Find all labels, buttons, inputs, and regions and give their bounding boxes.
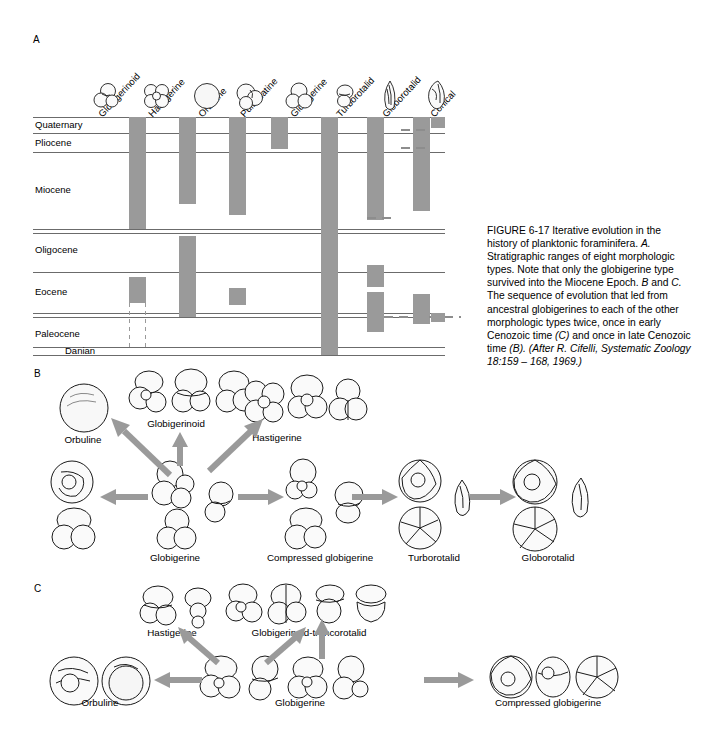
epoch-line-miocene-base <box>33 229 445 230</box>
shell-icon-c-globigerine-4 <box>330 655 370 703</box>
shell-icon-hastigerine <box>142 82 172 110</box>
range-bar-globorotalid-late <box>413 117 430 211</box>
figure-caption: FIGURE 6-17 Iterative evolution in the h… <box>487 224 692 368</box>
shell-icon-b-globigerinoid-2 <box>170 368 212 414</box>
range-bar-conical-paleocene <box>431 313 445 322</box>
panel-b-late-cenozoic-sequence: B Orbuline Globigerinoid <box>0 360 708 570</box>
epoch-label-paleocene: Paleocene <box>35 329 80 339</box>
arrow-c-globigerine-to-hastigerine <box>176 623 222 667</box>
epoch-label-pliocene: Pliocene <box>35 138 71 148</box>
shell-icon-globorotalid <box>378 80 402 112</box>
range-bar-globigerinoid-early <box>129 277 146 303</box>
arrow-c-globigerine-to-truncorotalid <box>262 623 308 667</box>
range-dash-conical-quaternary <box>401 129 431 131</box>
range-dash-turborotalid-miocene <box>367 217 397 219</box>
arrow-c-globigerine-to-orbuline <box>152 671 202 689</box>
node-label-c-compressed-globigerine: Compressed globigerine <box>478 697 618 708</box>
shell-icon-b-orbuline <box>58 382 110 434</box>
range-bar-globorotalid-early <box>413 294 430 324</box>
shell-icon-b-globigerine-side <box>203 480 237 528</box>
range-dash-globigerinoid-left <box>129 303 130 347</box>
shell-icon-c-compressed-2 <box>534 653 572 701</box>
epoch-label-danian: Danian <box>65 346 95 356</box>
epoch-line-oligocene-top <box>33 233 445 234</box>
range-bar-orbuline-late <box>229 117 246 215</box>
shell-icon-b-globigerine-2 <box>155 508 199 553</box>
shell-icon-c-trunco-1 <box>224 583 264 627</box>
arrow-b-compressed-to-turborotalid <box>352 488 400 506</box>
shell-icon-c-compressed-1 <box>488 653 534 701</box>
arrow-c-globigerine-left-link <box>162 671 164 673</box>
range-dash-globigerinoid-right <box>145 303 146 347</box>
node-label-b-globorotalid: Globorotalid <box>498 552 598 563</box>
epoch-label-eocene: Eocene <box>35 287 67 297</box>
range-bar-turborotalid-eocene <box>367 292 384 332</box>
stratigraphic-grid: Quaternary Pliocene Miocene Oligocene Eo… <box>33 117 445 355</box>
arrow-b-globigerine-to-hastigerine <box>206 416 266 476</box>
shell-icon-b-globorotalid-2 <box>510 506 560 554</box>
shell-icon-globigerinoid <box>92 82 122 110</box>
shell-icon-b-unlabeled-2 <box>50 506 98 552</box>
node-label-b-turborotalid: Turborotalid <box>384 552 484 563</box>
shell-icon-b-hastigerine-2 <box>286 374 328 422</box>
shell-icon-c-trunco-4 <box>352 583 390 627</box>
node-label-b-compressed-globigerine: Compressed globigerine <box>250 552 390 563</box>
range-dash-globorotalid-left <box>384 316 414 318</box>
node-label-b-globigerine: Globigerine <box>125 552 225 563</box>
range-dash-conical-pliocene <box>401 147 431 149</box>
panel-a-letter: A <box>33 34 40 45</box>
panel-c-early-cenozoic-sequence: C Hastigerine <box>0 575 708 756</box>
shell-icon-b-globigerinoid-1 <box>128 370 168 415</box>
range-bar-turborotalid-oligocene <box>367 265 384 287</box>
shell-icon-b-unlabeled-1 <box>48 458 96 506</box>
range-bar-globigerinoid-late <box>129 117 146 229</box>
panel-a-stratigraphic-chart: A Globigerinoid Hastigerine Orbuline Pul… <box>0 0 470 360</box>
range-bar-hastigerine-late <box>179 117 196 204</box>
shell-icon-orbuline <box>192 82 222 110</box>
panel-b-letter: B <box>34 368 41 379</box>
arrow-c-globigerine-to-trunco-vertical <box>312 619 332 659</box>
range-bar-orbuline-early <box>229 288 246 305</box>
arrow-b-turborotalid-to-globorotalid <box>470 488 518 506</box>
shell-icon-turborotalid <box>332 82 358 110</box>
arrow-b-globigerine-to-globigerinoid <box>170 432 190 466</box>
shell-icon-b-compressed-2 <box>283 506 329 552</box>
shell-icon-b-hastigerine-3 <box>328 378 368 424</box>
shell-icon-c-trunco-2 <box>266 583 308 627</box>
shell-icon-globigerine <box>284 82 314 110</box>
shell-icon-conical <box>424 80 450 112</box>
epoch-label-quaternary: Quaternary <box>35 120 83 130</box>
epoch-label-oligocene: Oligocene <box>35 245 78 255</box>
node-label-c-globigerinoid-truncorotalid: Globigerinoid-truncorotalid <box>209 627 409 638</box>
range-bar-turborotalid-late <box>367 117 384 220</box>
range-bar-pulleniatine <box>271 117 288 149</box>
shell-icon-pulleniatine <box>234 82 264 110</box>
node-label-c-globigerine: Globigerine <box>250 697 350 708</box>
shell-icon-b-compressed-1 <box>283 458 327 508</box>
range-bar-hastigerine-early <box>179 236 196 317</box>
node-label-c-orbuline: Orbuline <box>50 697 150 708</box>
arrow-b-globigerine-to-left <box>98 488 148 506</box>
arrow-c-globigerine-to-compressed <box>424 671 476 689</box>
shell-icon-b-turborotalid-2 <box>396 506 444 552</box>
shell-icon-b-turborotalid-1 <box>396 458 444 504</box>
panel-c-letter: C <box>34 583 41 594</box>
shell-icon-c-hastigerine-1 <box>138 585 180 629</box>
epoch-label-miocene: Miocene <box>35 185 71 195</box>
arrow-b-globigerine-to-compressed <box>238 488 286 506</box>
range-bar-globigerine-full <box>321 117 338 355</box>
arrow-b-globigerine-to-orbuline <box>108 415 178 485</box>
shell-icon-c-compressed-3 <box>574 653 620 701</box>
range-bar-conical-quaternary <box>431 117 445 128</box>
shell-icon-b-globorotalid-3 <box>566 476 594 524</box>
